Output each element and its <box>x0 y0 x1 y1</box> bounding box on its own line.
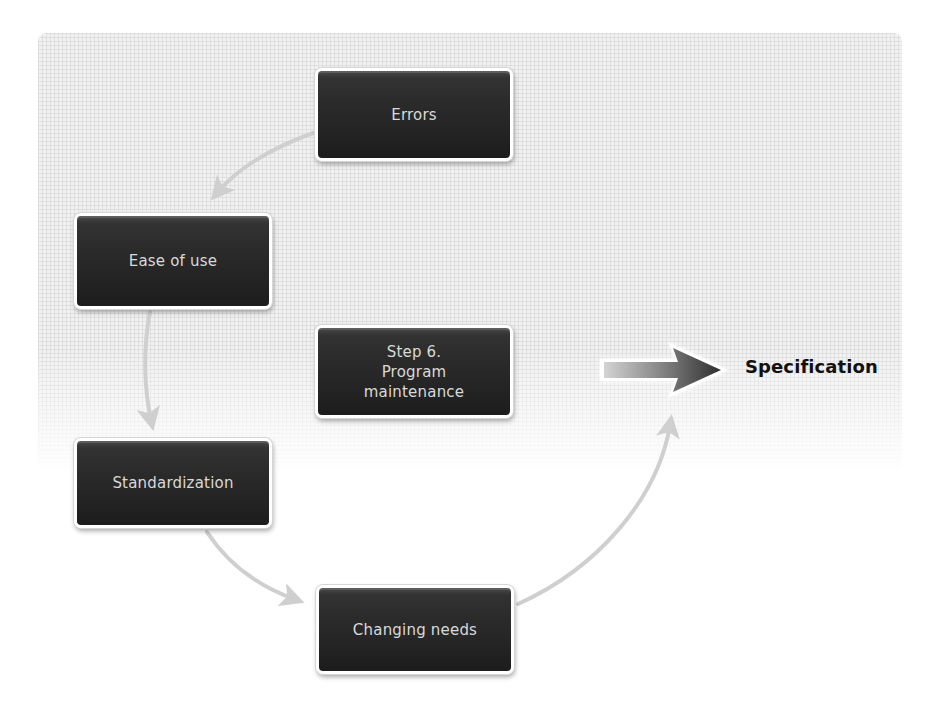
node-label: Changing needs <box>353 620 477 640</box>
connector-changing-needs-to-specification <box>518 425 670 604</box>
node-errors: Errors <box>315 68 513 161</box>
node-standardization: Standardization <box>74 438 272 528</box>
node-ease-of-use: Ease of use <box>74 213 272 309</box>
connector-standardization-to-changing-needs <box>207 532 294 599</box>
node-program-maintenance: Step 6. Program maintenance <box>315 325 513 418</box>
node-label: Step 6. Program maintenance <box>364 342 464 402</box>
node-label: Errors <box>391 105 437 125</box>
large-right-arrow-icon <box>600 342 728 398</box>
node-changing-needs: Changing needs <box>316 585 514 674</box>
node-label: Standardization <box>112 473 233 493</box>
connector-errors-to-ease-of-use <box>218 133 313 192</box>
node-label: Ease of use <box>129 251 217 271</box>
connector-ease-of-use-to-standardization <box>145 312 151 420</box>
output-specification-label: Specification <box>745 356 878 377</box>
